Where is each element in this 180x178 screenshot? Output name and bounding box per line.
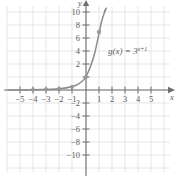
point-marker	[84, 75, 87, 78]
x-tick-label: −2	[54, 94, 63, 104]
y-tick-label: 2	[76, 59, 80, 69]
y-tick-label: −2	[71, 98, 80, 108]
function-label-exponent: x+1	[137, 46, 148, 52]
point-marker	[97, 30, 101, 34]
y-axis-name: y	[77, 0, 82, 8]
point-marker	[57, 87, 60, 90]
graph-figure: −5 −4 −3 −2 −1 1 2 3 4 5 10 8 6 4 2 −2 −…	[0, 0, 180, 178]
x-tick-label: −3	[41, 94, 50, 104]
function-label: g(x) = 3x+1	[108, 46, 147, 56]
y-axis-arrow	[83, 0, 89, 6]
x-tick-label: −4	[28, 94, 38, 104]
point-marker	[31, 88, 34, 91]
x-tick-label: 4	[136, 94, 141, 104]
x-axis-name: x	[169, 92, 174, 102]
x-tick-label: 1	[97, 94, 101, 104]
y-tick-label: 10	[72, 7, 81, 17]
point-marker	[44, 88, 47, 91]
y-tick-label: 8	[76, 20, 80, 30]
x-tick-label: −5	[15, 94, 24, 104]
y-tick-label: −6	[71, 124, 80, 134]
function-label-text: g(x) = 3	[108, 46, 138, 56]
y-tick-label: 6	[76, 33, 80, 43]
y-tick-label: −10	[67, 150, 80, 160]
x-tick-label: 3	[123, 94, 127, 104]
point-marker	[70, 85, 73, 88]
y-tick-label: −8	[71, 137, 80, 147]
curve-point-markers	[31, 30, 101, 91]
x-tick-label: 5	[149, 94, 153, 104]
y-tick-label: −4	[71, 111, 81, 121]
coordinate-plane-svg: −5 −4 −3 −2 −1 1 2 3 4 5 10 8 6 4 2 −2 −…	[0, 0, 180, 178]
x-tick-label: 2	[110, 94, 114, 104]
y-axis	[83, 0, 90, 176]
